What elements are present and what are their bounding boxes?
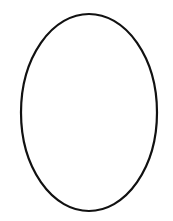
diagram-svg: [0, 0, 173, 221]
ellipse-outline: [21, 14, 157, 211]
diagram-canvas: [0, 0, 173, 221]
